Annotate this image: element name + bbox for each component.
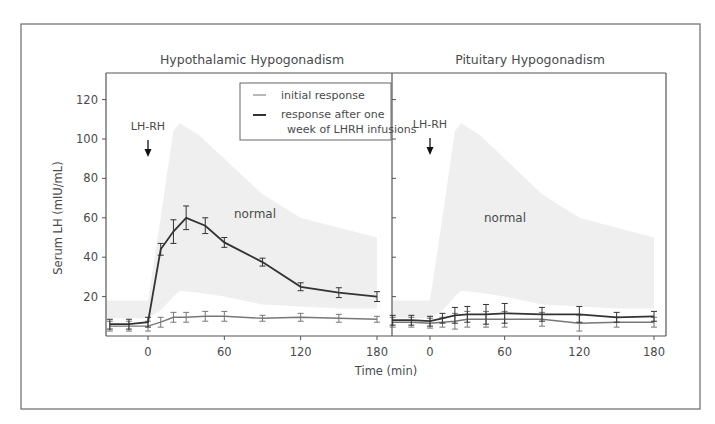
down-arrow-head-icon (427, 147, 434, 155)
chart: normal20406080100120060120180LH-RH norma… (0, 0, 715, 424)
y-tick-label: 60 (83, 211, 98, 225)
legend-label-after-1: response after one (281, 108, 385, 121)
left-panel-title: Hypothalamic Hypogonadism (160, 52, 344, 67)
y-tick-label: 80 (83, 171, 98, 185)
x-tick-label: 120 (568, 345, 590, 359)
y-tick-label: 120 (76, 93, 98, 107)
x-tick-label: 120 (290, 345, 312, 359)
y-tick-label: 20 (83, 290, 98, 304)
x-axis-label: Time (min) (354, 364, 417, 378)
y-tick-label: 100 (76, 132, 98, 146)
legend-label-after-2: week of LHRH infusions (287, 123, 417, 136)
x-tick-label: 60 (497, 345, 512, 359)
down-arrow-head-icon (145, 149, 152, 157)
legend-label-initial: initial response (281, 89, 365, 102)
y-tick-label: 40 (83, 250, 98, 264)
lhrh-annotation-label: LH-RH (131, 120, 165, 133)
normal-label: normal (234, 207, 276, 221)
right-panel-title: Pituitary Hypogonadism (455, 52, 605, 67)
legend: initial response response after one week… (240, 83, 417, 140)
x-tick-label: 180 (643, 345, 665, 359)
y-axis-label: Serum LH (mIU/mL) (51, 161, 65, 274)
normal-label: normal (484, 211, 526, 225)
lhrh-annotation-label: LH-RH (413, 118, 447, 131)
outer-frame (21, 24, 700, 409)
x-tick-label: 180 (366, 345, 388, 359)
panel-pituitary: normal060120180LH-RH (390, 73, 666, 359)
x-tick-label: 0 (144, 345, 151, 359)
x-tick-label: 0 (426, 345, 433, 359)
x-tick-label: 60 (217, 345, 232, 359)
